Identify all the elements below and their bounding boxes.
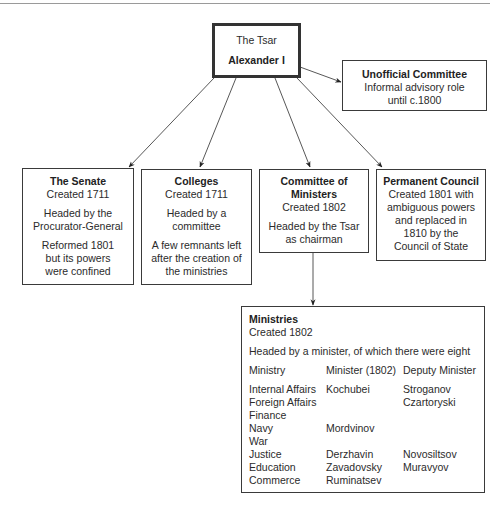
table-row: Justice Derzhavin Novosiltsov <box>249 448 484 461</box>
deputy-cell <box>403 474 483 487</box>
table-row: Navy Mordvinov <box>249 422 484 435</box>
arrow-to-unofficial-committee <box>300 67 341 82</box>
tsar-label: The Tsar <box>215 34 298 47</box>
column-header: Deputy Minister <box>403 364 483 377</box>
committee-of-ministers-headed: Headed by the Tsar <box>260 220 368 233</box>
senate-note: Reformed 1801 <box>23 239 133 252</box>
ministries-title: Ministries <box>249 313 484 326</box>
colleges-box: Colleges Created 1711 Headed by a commit… <box>141 169 252 285</box>
minister-cell <box>326 396 403 409</box>
committee-of-ministers-headed: as chairman <box>260 233 368 246</box>
senate-created: Created 1711 <box>23 188 133 201</box>
table-row: Commerce Ruminatsev <box>249 474 484 487</box>
ministry-cell: Navy <box>249 422 326 435</box>
senate-headed: Procurator-General <box>23 220 133 233</box>
colleges-headed: committee <box>142 220 251 233</box>
minister-cell <box>326 435 403 448</box>
minister-cell <box>326 409 403 422</box>
deputy-cell: Novosiltsov <box>403 448 483 461</box>
deputy-cell <box>403 435 483 448</box>
column-header: Ministry <box>249 364 326 377</box>
colleges-note: A few remnants left <box>142 239 251 252</box>
minister-cell: Mordvinov <box>326 422 403 435</box>
deputy-cell: Stroganov <box>403 383 483 396</box>
permanent-council-line: 1810 by the <box>377 227 485 240</box>
unofficial-committee-line: Informal advisory role <box>343 81 486 94</box>
colleges-note: the ministries <box>142 265 251 278</box>
deputy-cell: Muravyov <box>403 461 483 474</box>
ministries-box: Ministries Created 1802 Headed by a mini… <box>241 306 485 493</box>
ministry-cell: Finance <box>249 409 326 422</box>
minister-cell: Ruminatsev <box>326 474 403 487</box>
ministries-header-row: Ministry Minister (1802) Deputy Minister <box>249 364 484 377</box>
permanent-council-line: Council of State <box>377 240 485 253</box>
table-row: Education Zavadovsky Muravyov <box>249 461 484 474</box>
permanent-council-title: Permanent Council <box>377 175 485 188</box>
table-row: Internal Affairs Kochubei Stroganov <box>249 383 484 396</box>
table-row: Finance <box>249 409 484 422</box>
permanent-council-line: Created 1801 with <box>377 188 485 201</box>
permanent-council-box: Permanent Council Created 1801 with ambi… <box>376 169 486 261</box>
deputy-cell <box>403 422 483 435</box>
column-header: Minister (1802) <box>326 364 403 377</box>
unofficial-committee-title: Unofficial Committee <box>343 68 486 81</box>
senate-note: were confined <box>23 265 133 278</box>
permanent-council-line: and replaced in <box>377 214 485 227</box>
ministry-cell: Justice <box>249 448 326 461</box>
ministry-cell: Commerce <box>249 474 326 487</box>
arrow-to-committee-of-ministers <box>275 78 310 167</box>
colleges-headed: Headed by a <box>142 207 251 220</box>
colleges-note: after the creation of <box>142 252 251 265</box>
committee-of-ministers-created: Created 1802 <box>260 201 368 214</box>
senate-box: The Senate Created 1711 Headed by the Pr… <box>22 168 134 285</box>
committee-of-ministers-box: Committee of Ministers Created 1802 Head… <box>259 169 369 253</box>
arrow-to-senate <box>129 78 214 167</box>
minister-cell: Zavadovsky <box>326 461 403 474</box>
ministry-cell: Education <box>249 461 326 474</box>
minister-cell: Kochubei <box>326 383 403 396</box>
colleges-title: Colleges <box>142 175 251 188</box>
ministries-headed: Headed by a minister, of which there wer… <box>249 345 484 358</box>
deputy-cell: Czartoryski <box>403 396 483 409</box>
committee-of-ministers-title: Ministers <box>260 188 368 201</box>
unofficial-committee-box: Unofficial Committee Informal advisory r… <box>342 60 487 111</box>
committee-of-ministers-title: Committee of <box>260 175 368 188</box>
tsar-name: Alexander I <box>215 54 298 67</box>
senate-title: The Senate <box>23 175 133 188</box>
table-row: Foreign Affairs Czartoryski <box>249 396 484 409</box>
deputy-cell <box>403 409 483 422</box>
unofficial-committee-line: until c.1800 <box>343 94 486 107</box>
ministries-created: Created 1802 <box>249 326 484 339</box>
ministry-cell: Foreign Affairs <box>249 396 326 409</box>
table-row: War <box>249 435 484 448</box>
minister-cell: Derzhavin <box>326 448 403 461</box>
arrow-to-colleges <box>200 78 236 167</box>
senate-headed: Headed by the <box>23 207 133 220</box>
tsar-box: The Tsar Alexander I <box>212 23 301 78</box>
senate-note: but its powers <box>23 252 133 265</box>
ministry-cell: War <box>249 435 326 448</box>
colleges-created: Created 1711 <box>142 188 251 201</box>
ministries-table: Internal Affairs Kochubei Stroganov Fore… <box>249 383 484 487</box>
ministry-cell: Internal Affairs <box>249 383 326 396</box>
permanent-council-line: ambiguous powers <box>377 201 485 214</box>
